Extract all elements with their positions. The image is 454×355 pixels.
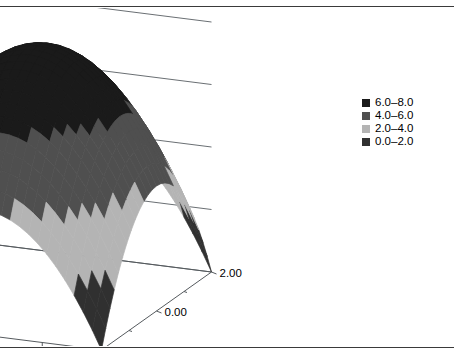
legend-swatch-icon [362, 112, 370, 120]
legend-item[interactable]: 4.0–6.0 [362, 109, 450, 122]
legend-item-label: 2.0–4.0 [375, 122, 413, 135]
tick-label: 2.00 [220, 267, 242, 279]
surface-chart: 0.02.04.06.08.0−2.000.002.00−2.000.002.0… [0, 0, 454, 355]
legend-swatch-icon [362, 125, 370, 133]
grid-line [184, 292, 187, 293]
surface-facet [198, 237, 211, 272]
tick-label: −2.00 [110, 345, 139, 346]
legend: 6.0–8.04.0–6.02.0–4.00.0–2.0 [362, 96, 450, 148]
tick-label: 0.00 [165, 306, 187, 318]
grid-line [129, 331, 132, 332]
legend-item[interactable]: 2.0–4.0 [362, 122, 450, 135]
legend-swatch-icon [362, 99, 370, 107]
surface-mesh [0, 43, 212, 346]
grid-line [102, 272, 212, 346]
legend-swatch-icon [362, 138, 370, 146]
frame-bottom-border [0, 347, 454, 348]
grid-line [212, 272, 217, 274]
legend-item-label: 0.0–2.0 [375, 135, 413, 148]
grid-line [0, 8, 212, 22]
grid-line [0, 320, 102, 346]
legend-item[interactable]: 6.0–8.0 [362, 96, 450, 109]
plot-area: 0.02.04.06.08.0−2.000.002.00−2.000.002.0… [0, 8, 454, 346]
grid-line [157, 311, 162, 313]
legend-item-label: 6.0–8.0 [375, 96, 413, 109]
legend-item-label: 4.0–6.0 [375, 109, 413, 122]
legend-item[interactable]: 0.0–2.0 [362, 135, 450, 148]
frame-top-border [0, 6, 454, 7]
